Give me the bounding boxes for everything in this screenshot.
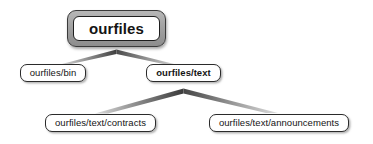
node-ourfiles-bin[interactable]: ourfiles/bin: [20, 64, 86, 82]
chevron-arm-left: [95, 89, 184, 114]
node-ourfiles-text[interactable]: ourfiles/text: [146, 64, 221, 82]
node-label-ourfiles-text-announcements: ourfiles/text/announcements: [219, 118, 339, 128]
chevron-arm-left: [62, 50, 117, 65]
node-ourfiles[interactable]: ourfiles: [67, 10, 166, 47]
chevron-connector-text: [95, 89, 278, 114]
node-label-ourfiles: ourfiles: [89, 21, 144, 36]
chevron-connector-root: [62, 50, 177, 65]
directory-tree-diagram: ourfiles ourfiles/bin ourfiles/text ourf…: [0, 0, 373, 144]
node-label-ourfiles-bin: ourfiles/bin: [30, 68, 77, 78]
node-label-ourfiles-text: ourfiles/text: [156, 68, 211, 78]
node-label-ourfiles-text-contracts: ourfiles/text/contracts: [55, 118, 146, 128]
chevron-arm-right: [117, 50, 178, 65]
node-ourfiles-text-contracts[interactable]: ourfiles/text/contracts: [45, 114, 156, 132]
node-inner-frame: ourfiles: [73, 16, 160, 41]
chevron-arm-right: [184, 89, 279, 114]
node-ourfiles-text-announcements[interactable]: ourfiles/text/announcements: [209, 114, 349, 132]
